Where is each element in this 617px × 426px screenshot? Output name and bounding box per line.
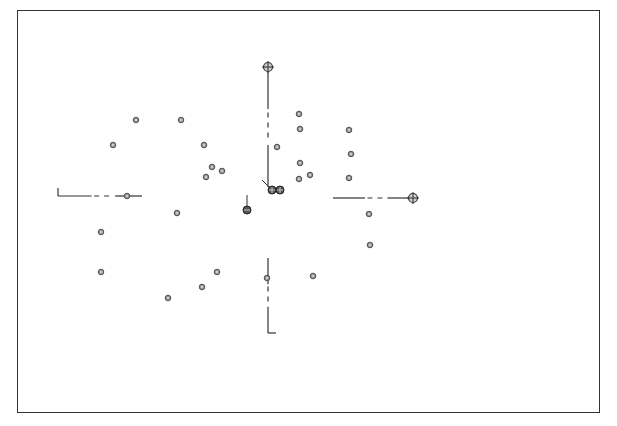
point-marker-center [126, 195, 128, 197]
point-marker-center [211, 166, 213, 168]
point-marker-center [309, 174, 311, 176]
point-marker-center [176, 212, 178, 214]
point-marker-center [348, 129, 350, 131]
point-marker-center [135, 119, 137, 121]
point-marker-center [266, 277, 268, 279]
point-marker-center [368, 213, 370, 215]
point-marker-center [201, 286, 203, 288]
point-marker-center [298, 113, 300, 115]
point-marker-center [276, 146, 278, 148]
point-marker-center [203, 144, 205, 146]
point-marker-center [180, 119, 182, 121]
point-marker-center [299, 128, 301, 130]
point-marker-center [348, 177, 350, 179]
point-marker-center [100, 271, 102, 273]
diagram-canvas [0, 0, 617, 426]
point-marker-center [221, 170, 223, 172]
point-marker-center [299, 162, 301, 164]
leader-line [262, 180, 270, 188]
point-marker-center [350, 153, 352, 155]
point-marker-center [205, 176, 207, 178]
point-marker-center [298, 178, 300, 180]
point-marker-center [167, 297, 169, 299]
point-marker-center [369, 244, 371, 246]
point-marker-center [216, 271, 218, 273]
point-marker-center [100, 231, 102, 233]
point-marker-center [112, 144, 114, 146]
point-marker-center [312, 275, 314, 277]
